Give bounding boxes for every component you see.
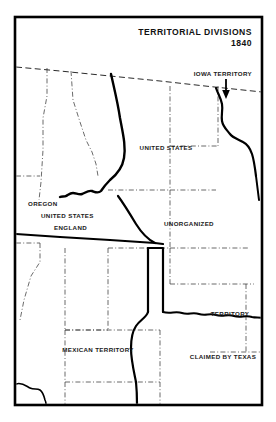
map-canvas: TERRITORIAL DIVISIONS 1840 IOWA TERRITOR…	[0, 0, 276, 422]
territorial-divisions-map: TERRITORIAL DIVISIONS 1840 IOWA TERRITOR…	[0, 0, 276, 422]
label-territory: TERRITORY	[211, 310, 250, 317]
continental-divide-tail	[60, 196, 66, 197]
label-oregon-united-states: UNITED STATES	[41, 212, 94, 219]
label-claimed-by-texas: CLAIMED BY TEXAS	[190, 353, 256, 360]
label-unorganized: UNORGANIZED	[164, 220, 214, 227]
label-mexican-territory: MEXICAN TERRITORY	[62, 346, 134, 353]
map-title-line1: TERRITORIAL DIVISIONS	[138, 27, 252, 37]
label-oregon-england: ENGLAND	[54, 224, 87, 231]
label-oregon: OREGON	[28, 200, 58, 207]
label-united-states: UNITED STATES	[140, 144, 193, 151]
label-iowa-territory: IOWA TERRITORY	[194, 70, 253, 77]
map-title-line2: 1840	[231, 38, 252, 48]
